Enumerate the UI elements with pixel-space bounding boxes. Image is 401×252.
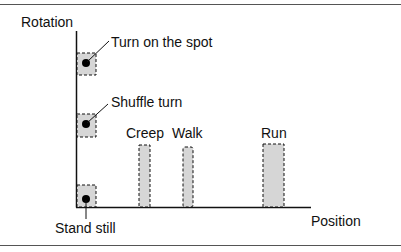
run-bar <box>263 144 284 207</box>
shuffle-turn-leader <box>87 104 108 123</box>
creep-label: Creep <box>126 125 164 141</box>
x-axis-label: Position <box>311 213 361 229</box>
walk-bar <box>183 147 193 207</box>
turn-on-spot-label: Turn on the spot <box>111 34 212 50</box>
shuffle-turn-label: Shuffle turn <box>111 94 182 110</box>
stand-still-label: Stand still <box>55 220 116 236</box>
run-label: Run <box>261 125 287 141</box>
walk-label: Walk <box>172 125 203 141</box>
y-axis-label: Rotation <box>21 14 73 30</box>
creep-bar <box>139 145 150 207</box>
turn-on-spot-leader <box>87 41 109 62</box>
